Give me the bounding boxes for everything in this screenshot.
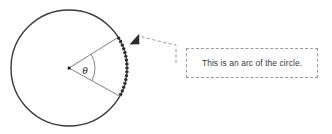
radius-upper-line: [69, 37, 118, 68]
callout-arrowhead-icon: [130, 34, 140, 45]
callout-box: This is an arc of the circle.: [186, 48, 318, 78]
circle-center-dot: [68, 67, 71, 70]
central-angle-arc: [91, 54, 95, 80]
callout-text: This is an arc of the circle.: [202, 59, 302, 68]
callout-leader-line: [139, 36, 176, 63]
highlighted-arc: [118, 37, 127, 96]
theta-symbol-label: θ: [82, 64, 88, 76]
figure-root: θ This is an arc of the circle.: [0, 0, 332, 134]
